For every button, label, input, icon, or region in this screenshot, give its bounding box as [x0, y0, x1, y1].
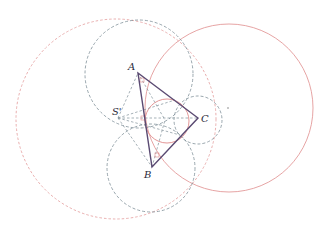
label-c: C	[201, 113, 209, 124]
line-s-upper	[118, 100, 175, 118]
circle-center-dot	[227, 107, 228, 108]
large-red-dashed-circle	[16, 19, 216, 219]
right-angle-marker-a	[140, 78, 144, 82]
label-a: A	[127, 61, 135, 72]
red-solid-circle	[145, 24, 313, 192]
label-b: B	[143, 169, 151, 180]
geometry-diagram: A B C S'	[0, 0, 323, 233]
label-s-prime: S'	[112, 106, 122, 117]
